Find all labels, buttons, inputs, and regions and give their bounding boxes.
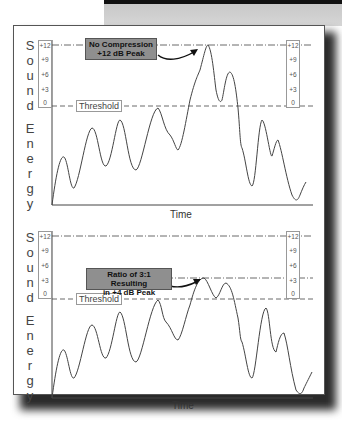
label-letter: u [24, 260, 36, 275]
callout-line: in +4 dB Peak [89, 288, 169, 297]
tick-label: 0 [39, 290, 51, 297]
left-db-scale: +12 +9 +6 +3 0 [38, 231, 52, 299]
callout-arrow [158, 52, 194, 59]
label-letter: E [24, 121, 36, 136]
callout-arrow [170, 282, 196, 287]
tick-label: +6 [39, 262, 51, 269]
axes [52, 231, 313, 398]
callout-line: No Compression [88, 40, 154, 49]
label-letter: e [24, 343, 36, 358]
tick-label: 0 [287, 99, 299, 106]
tick-label: +9 [287, 247, 299, 254]
x-axis-label: Time [170, 209, 192, 220]
compression-ratio-callout: Ratio of 3:1 Resulting in +4 dB Peak [86, 268, 172, 290]
tick-label: +3 [39, 86, 51, 93]
label-letter: n [24, 136, 36, 151]
tick-label: +12 [287, 233, 299, 240]
label-letter: n [24, 328, 36, 343]
callout-line: Ratio of 3:1 Resulting [89, 270, 169, 288]
label-letter: d [24, 290, 36, 305]
label-letter: r [24, 166, 36, 181]
label-letter: y [24, 388, 36, 403]
label-letter: n [24, 275, 36, 290]
label-letter: e [24, 151, 36, 166]
label-letter: d [24, 98, 36, 113]
waveform-uncompressed [52, 45, 306, 205]
bottom-panel-graphics [52, 231, 313, 398]
tick-label: +12 [39, 42, 51, 49]
tick-label: 0 [39, 99, 51, 106]
tick-label: +12 [287, 42, 299, 49]
callout-line: +12 dB Peak [88, 49, 154, 58]
tick-label: +9 [39, 56, 51, 63]
label-letter: S [24, 38, 36, 53]
tick-label: +3 [287, 86, 299, 93]
label-letter: o [24, 53, 36, 68]
axes [52, 40, 313, 205]
label-letter: r [24, 358, 36, 373]
tick-label: +3 [287, 277, 299, 284]
label-letter: S [24, 230, 36, 245]
tick-label: +6 [287, 262, 299, 269]
tick-label: +6 [287, 71, 299, 78]
tick-label: +3 [39, 277, 51, 284]
label-letter: g [24, 373, 36, 388]
x-axis-label: Time [172, 400, 194, 411]
tick-label: +9 [39, 247, 51, 254]
tick-label: 0 [287, 290, 299, 297]
tick-label: +6 [39, 71, 51, 78]
threshold-label: Threshold [76, 100, 122, 112]
arrowhead-icon [190, 49, 198, 56]
label-letter: u [24, 68, 36, 83]
tick-label: +12 [39, 233, 51, 240]
y-axis-label: S o u n d E n e r g y [24, 38, 36, 211]
left-db-scale: +12 +9 +6 +3 0 [38, 40, 52, 108]
y-axis-label: S o u n d E n e r g y [24, 230, 36, 403]
right-db-scale: +12 +9 +6 +3 0 [286, 231, 300, 299]
label-letter: o [24, 245, 36, 260]
right-db-scale: +12 +9 +6 +3 0 [286, 40, 300, 108]
tick-label: +9 [287, 56, 299, 63]
label-letter: g [24, 181, 36, 196]
no-compression-callout: No Compression +12 dB Peak [85, 38, 157, 60]
label-letter: n [24, 83, 36, 98]
label-letter: E [24, 313, 36, 328]
top-panel-graphics [52, 40, 313, 205]
label-letter: y [24, 196, 36, 211]
